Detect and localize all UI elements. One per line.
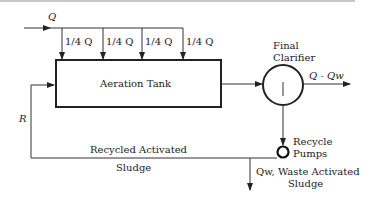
recycle-rate-label: R — [19, 113, 27, 124]
recycled-sludge-label-line2: Sludge — [116, 162, 151, 173]
waste-label-line2: Sludge — [288, 178, 323, 189]
step-feed-label-2: 1/4 Q — [106, 36, 133, 47]
influent-label: Q — [48, 11, 56, 22]
waste-label-line1: Qw, Waste Activated — [256, 166, 360, 177]
clarifier-label-line1: Final — [273, 40, 299, 51]
step-feed-label-4: 1/4 Q — [186, 36, 213, 47]
recycle-pump-icon — [278, 147, 289, 158]
step-feed-label-3: 1/4 Q — [145, 36, 172, 47]
effluent-label: Q - Qw — [309, 70, 344, 81]
pump-label-line2: Pumps — [293, 148, 327, 159]
recycled-sludge-label-line1: Recycled Activated — [90, 144, 187, 155]
step-feed-label-1: 1/4 Q — [65, 36, 92, 47]
aeration-tank-label: Aeration Tank — [100, 78, 171, 89]
pump-label-line1: Recycle — [293, 136, 332, 147]
clarifier-label-line2: Clarifier — [273, 52, 315, 63]
